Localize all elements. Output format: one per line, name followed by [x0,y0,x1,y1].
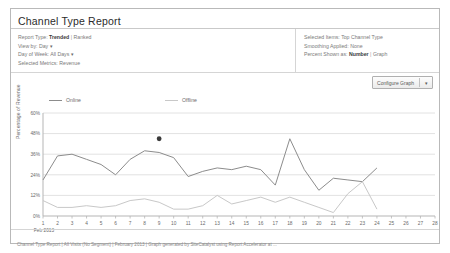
x-axis-tick-label: 11 [186,221,191,226]
x-axis-tick-label: 3 [71,221,74,226]
x-axis-tick-label: 2 [56,221,59,226]
line-chart[interactable]: 0%12%24%36%48%60%12345678910111213141516… [11,107,441,235]
x-axis-tick-label: 22 [345,221,351,226]
legend-swatch-online [49,100,62,101]
x-axis-tick-label: 19 [302,221,308,226]
x-axis-tick-label: 4 [85,221,88,226]
legend-label-online: Online [66,97,81,103]
x-axis-tick-label: 24 [374,221,380,226]
percent-shown-line: Percent Shown as: Number | Graph [304,50,439,59]
view-by-line: View by: Day ▾ [18,42,295,51]
selected-items-line: Selected Items: Top Channel Type [304,33,439,42]
selected-items-value: Top Channel Type [341,34,383,40]
x-axis-tick-label: 18 [287,221,293,226]
selected-metrics-label: Selected Metrics: [18,60,58,66]
y-axis-tick-label: 48% [30,131,40,136]
percent-shown-label: Percent Shown as: [304,51,348,57]
day-of-week-line: Day of Week: All Days ▾ [18,50,295,59]
report-type-line: Report Type: Trended | Ranked [18,33,295,42]
x-axis-tick-label: 13 [215,221,221,226]
y-axis-tick-label: 24% [30,173,40,178]
report-panel: Channel Type Report Report Type: Trended… [10,8,440,244]
report-settings-right: Selected Items: Top Channel Type Smoothi… [296,29,439,72]
x-axis-tick-label: 23 [360,221,366,226]
legend-label-offline: Offline [182,97,197,103]
legend-item-offline[interactable]: Offline [165,97,197,103]
day-of-week-label: Day of Week: [18,51,49,57]
report-title-bar: Channel Type Report [11,9,439,29]
x-axis-tick-label: 5 [100,221,103,226]
x-axis-tick-label: 17 [273,221,279,226]
configure-graph-button[interactable]: Configure Graph ▾ [372,76,433,89]
x-axis-tick-label: 28 [432,221,438,226]
percent-shown-alt[interactable]: Graph [373,51,387,57]
x-axis-tick-label: 9 [158,221,161,226]
x-axis-tick-label: 10 [171,221,177,226]
x-axis-tick-label: 27 [418,221,424,226]
report-type-alt[interactable]: Ranked [74,34,92,40]
x-axis-tick-label: 15 [244,221,250,226]
x-axis-tick-label: 25 [389,221,395,226]
x-axis-tick-label: 21 [331,221,337,226]
x-axis-tick-label: 16 [258,221,264,226]
view-by-value[interactable]: Day [39,43,48,49]
series-line-offline[interactable] [43,182,377,213]
data-point-marker[interactable] [157,136,162,141]
y-axis-tick-label: 60% [30,111,40,116]
legend-swatch-offline [165,100,178,101]
report-settings-left: Report Type: Trended | Ranked View by: D… [11,29,296,72]
selected-metrics-line: Selected Metrics: Revenue [18,59,295,68]
configure-graph-label: Configure Graph [377,80,414,86]
report-type-separator: | [71,34,72,40]
y-axis-tick-label: 12% [30,193,40,198]
smoothing-label: Smoothing Applied: [304,43,349,49]
chart-footer: Channel Type Report | All Visits (No Seg… [11,229,439,243]
x-axis-tick-label: 1 [42,221,45,226]
chart-area: Percentage of Revenue 0%12%24%36%48%60%1… [11,107,441,235]
percent-shown-value[interactable]: Number [349,51,369,57]
x-axis-tick-label: 6 [114,221,117,226]
page-title: Channel Type Report [18,15,121,27]
chart-legend: Online Offline [11,93,439,107]
view-by-label: View by: [18,43,38,49]
smoothing-line: Smoothing Applied: None [304,42,439,51]
footer-text: Channel Type Report | All Visits (No Seg… [17,242,277,247]
percent-shown-separator: | [370,51,371,57]
chart-toolbar: Configure Graph ▾ [11,73,439,93]
legend-item-online[interactable]: Online [49,97,81,103]
selected-items-label: Selected Items: [304,34,340,40]
report-type-label: Report Type: [18,34,48,40]
report-info-row: Report Type: Trended | Ranked View by: D… [11,29,439,73]
x-axis-tick-label: 26 [403,221,409,226]
selected-metrics-value[interactable]: Revenue [59,60,80,66]
day-of-week-value[interactable]: All Days [50,51,69,57]
y-axis-tick-label: 0% [33,214,41,219]
series-line-online[interactable] [43,139,377,191]
chevron-down-icon[interactable]: ▾ [50,43,53,49]
button-divider [419,78,420,87]
x-axis-tick-label: 7 [129,221,132,226]
y-axis-tick-label: 36% [30,152,40,157]
x-axis-tick-label: 12 [200,221,206,226]
chevron-down-icon[interactable]: ▾ [71,51,74,57]
x-axis-tick-label: 14 [229,221,235,226]
chevron-down-icon: ▾ [425,80,428,86]
x-axis-tick-label: 20 [316,221,322,226]
x-axis-tick-label: 8 [143,221,146,226]
y-axis-label: Percentage of Revenue [15,84,21,139]
report-type-value[interactable]: Trended [49,34,69,40]
smoothing-value: None [350,43,362,49]
